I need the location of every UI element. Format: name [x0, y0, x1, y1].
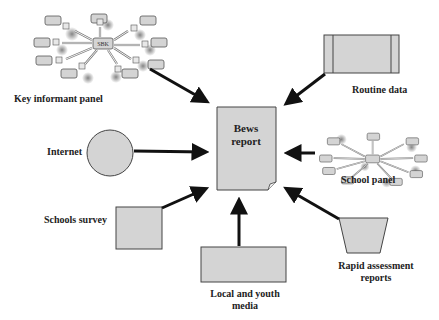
label-rapid-assessment: Rapid assessment reports	[336, 260, 416, 284]
center-title-line2: report	[226, 135, 266, 148]
diagram-canvas: SBK	[0, 0, 439, 320]
svg-text:SBK: SBK	[97, 41, 109, 47]
label-key-informant-panel: Key informant panel	[14, 93, 103, 105]
internet-shape	[87, 130, 133, 176]
label-internet: Internet	[47, 146, 82, 158]
schools-survey-shape	[116, 207, 162, 249]
label-local-line2: media	[205, 300, 285, 312]
label-local-youth-media: Local and youth media	[205, 288, 285, 312]
label-schools-survey: Schools survey	[44, 214, 107, 226]
label-routine-data: Routine data	[352, 84, 407, 96]
label-local-line1: Local and youth	[205, 288, 285, 300]
center-title-line1: Bews	[226, 122, 266, 135]
bews-report-shape	[217, 107, 276, 190]
rapid-assessment-shape	[339, 218, 388, 253]
bews-report-title: Bews report	[226, 122, 266, 148]
label-rapid-line1: Rapid assessment	[336, 260, 416, 272]
key-informant-network: SBK	[34, 14, 167, 84]
label-rapid-line2: reports	[336, 272, 416, 284]
local-media-shape	[201, 247, 286, 282]
label-school-panel: School panel	[341, 174, 395, 186]
routine-data-shape	[324, 35, 399, 73]
